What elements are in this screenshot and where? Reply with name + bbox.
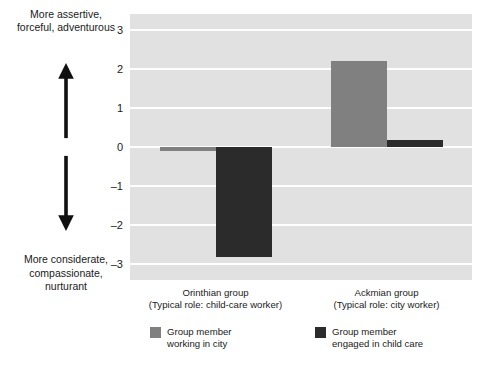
category-label-line: (Typical role: child-care worker) — [130, 299, 301, 311]
bars-layer — [130, 14, 472, 280]
legend-label-line: working in city — [167, 338, 232, 350]
bar — [331, 61, 387, 147]
bar — [216, 147, 272, 257]
annotation-line: assertive, — [57, 8, 102, 20]
legend-label-line: Group member — [167, 326, 232, 338]
legend-label-line: engaged in child care — [332, 338, 423, 350]
annotation-line: forceful, — [17, 21, 54, 33]
annotation-line: More — [30, 8, 54, 20]
y-axis-tick-label: 2 — [117, 63, 123, 74]
plot-area: 3210–1–2–3 — [130, 14, 472, 280]
legend-swatch-icon — [150, 327, 161, 338]
annotation-line: More — [24, 253, 48, 265]
legend-label: Group memberengaged in child care — [332, 326, 423, 351]
legend-item[interactable]: Group memberengaged in child care — [315, 326, 423, 351]
y-axis-tick-label: –1 — [111, 181, 123, 192]
category-labels: Orinthian group(Typical role: child-care… — [130, 287, 472, 313]
bar — [387, 140, 443, 147]
category-label: Orinthian group(Typical role: child-care… — [130, 287, 301, 312]
annotation-line: compassionate, — [29, 267, 103, 279]
annotation-line: adventurous — [57, 21, 115, 33]
category-label-line: (Typical role: city worker) — [301, 299, 472, 311]
axis-annotation-top-label: More assertive, forceful, adventurous — [10, 8, 122, 34]
annotation-line: nurturant — [45, 280, 87, 292]
chart-legend: Group memberworking in cityGroup membere… — [130, 326, 472, 356]
y-axis-tick-label: 3 — [117, 24, 123, 35]
legend-swatch-icon — [315, 327, 326, 338]
double-headed-vertical-arrow-icon — [55, 63, 77, 231]
y-axis-tick-label: 0 — [117, 142, 123, 153]
category-label: Ackmian group(Typical role: city worker) — [301, 287, 472, 312]
legend-item[interactable]: Group memberworking in city — [150, 326, 232, 351]
category-label-line: Ackmian group — [301, 287, 472, 299]
y-axis-tick-label: 1 — [117, 102, 123, 113]
legend-label: Group memberworking in city — [167, 326, 232, 351]
legend-label-line: Group member — [332, 326, 423, 338]
annotation-line: considerate, — [51, 253, 108, 265]
y-axis-tick-label: –2 — [111, 220, 123, 231]
axis-annotation: More assertive, forceful, adventurous Mo… — [10, 8, 122, 293]
y-axis-tick-label: –3 — [111, 259, 123, 270]
bar — [160, 147, 216, 151]
figure-container: More assertive, forceful, adventurous Mo… — [0, 0, 487, 369]
axis-annotation-bottom-label: More considerate, compassionate, nurtura… — [10, 253, 122, 293]
category-label-line: Orinthian group — [130, 287, 301, 299]
